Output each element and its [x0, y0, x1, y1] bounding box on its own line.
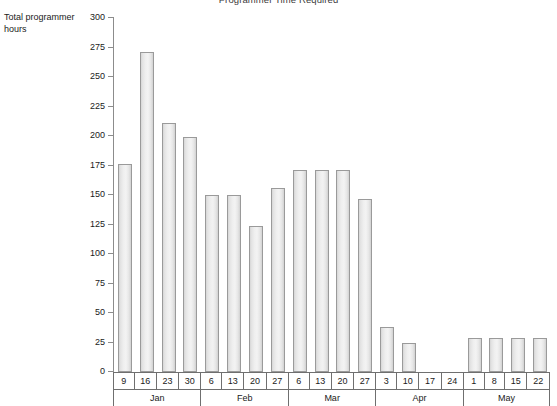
x-axis-week-cell: 30 [179, 373, 201, 390]
bar [162, 123, 176, 372]
bar [140, 52, 154, 372]
x-axis-week-cell: 16 [134, 373, 156, 390]
x-axis-week-cell: 6 [288, 373, 309, 390]
bar [489, 338, 503, 372]
x-axis-week-cell: 24 [441, 373, 463, 390]
chart-title: Programmer Time Required [0, 0, 557, 5]
y-axis-title: Total programmer hours [4, 12, 88, 35]
x-axis-week-cell: 13 [309, 373, 331, 390]
x-axis-week-cell: 20 [244, 373, 266, 390]
x-axis-week-cell: 17 [419, 373, 441, 390]
x-axis-week-cell: 15 [505, 373, 527, 390]
x-axis-week-cell: 13 [222, 373, 244, 390]
y-tick-label: 200 [90, 130, 105, 140]
x-axis-month-cell: Mar [288, 390, 375, 406]
y-tick-label: 50 [95, 307, 105, 317]
y-tick-label: 150 [90, 189, 105, 199]
y-tick-label: 100 [90, 248, 105, 258]
x-axis-month-cell: Feb [201, 390, 288, 406]
bar [336, 170, 350, 372]
bar [183, 137, 197, 372]
bar [249, 226, 263, 372]
bar [468, 338, 482, 372]
x-axis-month-cell: Jan [114, 390, 201, 406]
x-axis-month-cell: Apr [376, 390, 463, 406]
bar [358, 199, 372, 372]
bar [315, 170, 329, 372]
y-tick-label: 300 [90, 12, 105, 22]
x-axis-week-cell: 10 [397, 373, 419, 390]
bar [118, 164, 132, 372]
bar [380, 327, 394, 372]
bar [533, 338, 547, 372]
x-axis-week-row: 9162330613202761320273101724181522 [114, 373, 550, 390]
x-axis-week-cell: 27 [354, 373, 376, 390]
y-tick-label: 25 [95, 337, 105, 347]
y-tick-label: 125 [90, 219, 105, 229]
chart-page: Programmer Time Required Total programme… [0, 0, 557, 406]
x-axis-month-cell: May [463, 390, 549, 406]
y-tick-label: 0 [100, 366, 105, 376]
bar-series [113, 17, 550, 372]
y-tick-label: 75 [95, 278, 105, 288]
bar [402, 343, 416, 373]
x-axis-week-cell: 27 [266, 373, 288, 390]
y-tick-label: 250 [90, 71, 105, 81]
y-tick-label: 225 [90, 101, 105, 111]
x-axis-week-cell: 23 [156, 373, 178, 390]
x-axis-week-cell: 6 [201, 373, 222, 390]
x-axis-week-cell: 20 [331, 373, 353, 390]
x-axis-month-row: JanFebMarAprMay [114, 390, 550, 406]
x-axis-week-cell: 1 [463, 373, 484, 390]
bar [271, 188, 285, 372]
x-axis-label-table: 9162330613202761320273101724181522 JanFe… [113, 372, 550, 406]
x-axis-week-cell: 9 [114, 373, 135, 390]
x-axis-week-cell: 22 [527, 373, 550, 390]
bar [293, 170, 307, 372]
bar [205, 195, 219, 372]
x-axis-week-cell: 8 [484, 373, 505, 390]
y-tick-label: 275 [90, 42, 105, 52]
bar [511, 338, 525, 372]
x-axis-week-cell: 3 [376, 373, 397, 390]
plot-area: 0255075100125150175200225250275300 [113, 17, 550, 371]
y-tick-label: 175 [90, 160, 105, 170]
bar [227, 195, 241, 372]
